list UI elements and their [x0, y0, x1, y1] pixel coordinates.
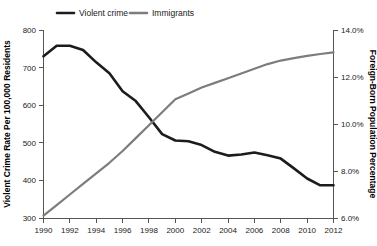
right-tick-label: 12.0%	[341, 73, 364, 82]
left-tick-label: 500	[23, 139, 37, 148]
x-tick-label: 2008	[272, 226, 290, 235]
x-axis: 1990199219941996199820002002200420062008…	[35, 219, 343, 236]
plot-area	[44, 46, 334, 216]
right-tick-label: 14.0%	[341, 26, 364, 35]
legend-label-immigrants: Immigrants	[152, 8, 194, 18]
legend-label-violent-crime: Violent crime	[79, 8, 128, 18]
dual-axis-line-chart: Violent crime Immigrants 300400500600700…	[0, 0, 377, 246]
x-tick-label: 2002	[193, 226, 211, 235]
right-tick-label: 8.0%	[341, 167, 359, 176]
left-axis: 300400500600700800 Violent Crime Rate Pe…	[2, 26, 44, 223]
right-tick-label: 10.0%	[341, 120, 364, 129]
series-line-immigrants	[44, 52, 334, 215]
x-axis-ticks: 1990199219941996199820002002200420062008…	[35, 219, 343, 236]
chart-container: Violent crime Immigrants 300400500600700…	[0, 0, 377, 246]
left-tick-label: 300	[23, 214, 37, 223]
left-axis-title: Violent Crime Rate Per 100,000 Residents	[2, 40, 12, 208]
left-tick-label: 700	[23, 64, 37, 73]
x-tick-label: 2004	[219, 226, 237, 235]
x-tick-label: 2012	[325, 226, 343, 235]
left-tick-label: 400	[23, 176, 37, 185]
x-tick-label: 2006	[246, 226, 264, 235]
x-tick-label: 2010	[298, 226, 316, 235]
left-axis-ticks: 300400500600700800	[23, 26, 44, 223]
x-tick-label: 1996	[114, 226, 132, 235]
right-axis-title: Foreign-Born Population Percentage	[368, 50, 377, 199]
left-tick-label: 600	[23, 101, 37, 110]
right-axis: 6.0%8.0%10.0%12.0%14.0% Foreign-Born Pop…	[334, 26, 377, 223]
legend: Violent crime Immigrants	[57, 8, 194, 18]
right-tick-label: 6.0%	[341, 214, 359, 223]
series-line-violent-crime	[44, 46, 334, 186]
left-tick-label: 800	[23, 26, 37, 35]
x-tick-label: 1998	[140, 226, 158, 235]
x-tick-label: 1992	[61, 226, 79, 235]
x-tick-label: 1994	[87, 226, 105, 235]
x-tick-label: 1990	[35, 226, 53, 235]
right-axis-ticks: 6.0%8.0%10.0%12.0%14.0%	[334, 26, 364, 223]
x-tick-label: 2000	[166, 226, 184, 235]
